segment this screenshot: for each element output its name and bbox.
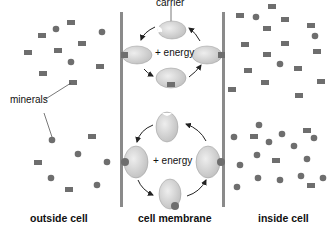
inside-minerals — [228, 4, 326, 190]
carrier-right — [192, 46, 225, 64]
carrier-top-b — [156, 112, 178, 142]
inside-cell-label: inside cell — [258, 212, 309, 224]
energy-label-top: + energy — [155, 47, 194, 58]
energy-label-bottom: + energy — [153, 155, 192, 166]
carrier-bottom-b — [159, 179, 181, 210]
outside-minerals — [24, 20, 110, 192]
carrier-left-b — [121, 146, 148, 178]
carrier-label: carrier — [156, 0, 184, 8]
cell-membrane-label: cell membrane — [138, 212, 212, 224]
carrier-bottom — [156, 68, 186, 88]
carrier-left — [121, 46, 152, 64]
carrier-top — [157, 21, 186, 39]
diagram-canvas — [0, 0, 331, 233]
active-transport-diagram: carrier minerals + energy + energy outsi… — [0, 0, 331, 233]
outside-cell-label: outside cell — [30, 212, 88, 224]
carrier-right-b — [196, 146, 225, 178]
minerals-label: minerals — [10, 94, 48, 105]
minerals-pointer — [44, 83, 71, 137]
